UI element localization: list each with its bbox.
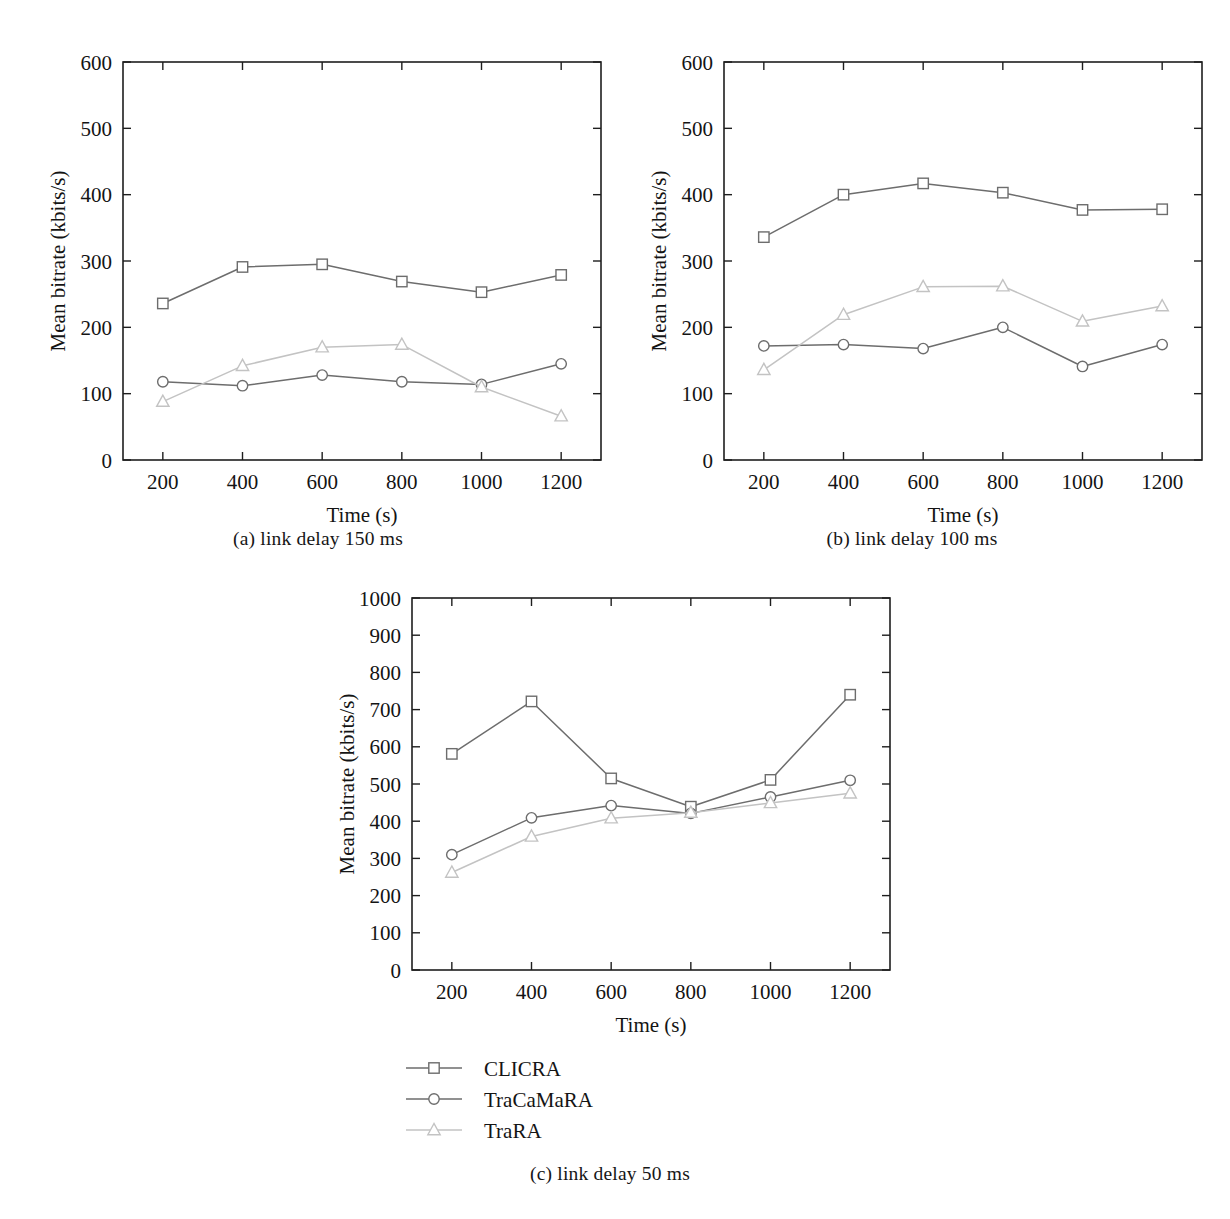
x-axis-title: Time (s)	[327, 503, 398, 527]
data-point-trara-800	[997, 280, 1009, 291]
data-point-trara-600	[917, 280, 929, 291]
legend-item-clicra[interactable]: CLICRA	[406, 1057, 562, 1081]
data-point-clicra-1200	[556, 270, 566, 280]
y-tick-label: 600	[370, 735, 402, 759]
data-point-tracamara-400	[838, 339, 848, 349]
data-point-clicra-600	[918, 178, 928, 188]
chart-a-canvas: 010020030040050060020040060080010001200T…	[18, 40, 618, 520]
data-point-tracamara-400	[526, 813, 536, 823]
y-tick-label: 400	[81, 183, 113, 207]
figure-legend: CLICRATraCaMaRATraRA	[398, 1048, 738, 1156]
legend-item-tracamara[interactable]: TraCaMaRA	[406, 1088, 594, 1112]
data-point-clicra-1000	[1077, 205, 1087, 215]
data-point-clicra-1000	[765, 775, 775, 785]
chart-c-canvas: 0100200300400500600700800900100020040060…	[300, 580, 920, 1030]
y-tick-label: 600	[81, 51, 113, 75]
chart-b-canvas: 010020030040050060020040060080010001200T…	[612, 40, 1212, 520]
caption-a: (a) link delay 150 ms	[18, 528, 618, 550]
series-clicra	[759, 178, 1168, 242]
series-line-trara	[764, 286, 1162, 370]
x-tick-label: 200	[147, 470, 179, 494]
data-point-trara-200	[157, 395, 169, 406]
data-point-trara-800	[396, 338, 408, 349]
y-axis-title: Mean bitrate (kbits/s)	[647, 171, 671, 352]
series-tracamara	[158, 359, 567, 391]
x-tick-label: 1000	[750, 980, 792, 1004]
legend-label-tracamara: TraCaMaRA	[484, 1088, 594, 1112]
x-tick-label: 1000	[461, 470, 503, 494]
data-point-tracamara-1200	[1157, 339, 1167, 349]
x-axis-title: Time (s)	[616, 1013, 687, 1037]
y-tick-label: 0	[102, 449, 113, 473]
data-point-clicra-1200	[845, 690, 855, 700]
y-tick-label: 400	[370, 810, 402, 834]
data-point-trara-200	[758, 363, 770, 374]
data-point-tracamara-1200	[556, 359, 566, 369]
series-line-tracamara	[452, 780, 850, 854]
y-tick-label: 500	[682, 117, 714, 141]
y-tick-label: 500	[370, 773, 402, 797]
legend-label-trara: TraRA	[484, 1119, 542, 1143]
series-clicra	[447, 690, 856, 812]
data-point-clicra-400	[526, 696, 536, 706]
y-tick-label: 700	[370, 698, 402, 722]
data-point-clicra-800	[998, 187, 1008, 197]
data-point-tracamara-200	[158, 377, 168, 387]
data-point-clicra-400	[237, 262, 247, 272]
figure-root: 010020030040050060020040060080010001200T…	[0, 0, 1230, 1219]
plot-frame	[123, 62, 601, 460]
y-axis-title: Mean bitrate (kbits/s)	[46, 171, 70, 352]
x-tick-label: 400	[227, 470, 259, 494]
series-tracamara	[759, 322, 1168, 372]
caption-b: (b) link delay 100 ms	[612, 528, 1212, 550]
chart-panel-a: 010020030040050060020040060080010001200T…	[18, 40, 618, 560]
series-line-trara	[452, 793, 850, 872]
data-point-trara-1200	[1156, 300, 1168, 311]
plot-frame	[724, 62, 1202, 460]
data-point-tracamara-400	[237, 381, 247, 391]
legend-marker-tracamara	[429, 1094, 439, 1104]
y-tick-label: 1000	[359, 587, 401, 611]
y-axis-title: Mean bitrate (kbits/s)	[335, 694, 359, 875]
y-tick-label: 300	[81, 250, 113, 274]
legend-canvas: CLICRATraCaMaRATraRA	[398, 1048, 738, 1156]
data-point-trara-1200	[844, 787, 856, 798]
y-tick-label: 0	[391, 959, 402, 983]
series-trara	[446, 787, 857, 877]
y-tick-label: 200	[81, 316, 113, 340]
data-point-clicra-800	[397, 276, 407, 286]
data-point-clicra-1200	[1157, 204, 1167, 214]
x-tick-label: 1000	[1062, 470, 1104, 494]
series-line-clicra	[452, 695, 850, 807]
chart-panel-c: 0100200300400500600700800900100020040060…	[300, 580, 920, 1060]
data-point-clicra-200	[759, 232, 769, 242]
y-tick-label: 100	[682, 382, 714, 406]
chart-panel-b: 010020030040050060020040060080010001200T…	[612, 40, 1212, 560]
caption-c: (c) link delay 50 ms	[300, 1163, 920, 1185]
data-point-clicra-1000	[476, 287, 486, 297]
x-tick-label: 400	[516, 980, 548, 1004]
y-tick-label: 300	[370, 847, 402, 871]
y-tick-label: 300	[682, 250, 714, 274]
y-tick-label: 400	[682, 183, 714, 207]
legend-marker-clicra	[429, 1063, 439, 1073]
data-point-clicra-400	[838, 189, 848, 199]
x-tick-label: 800	[386, 470, 418, 494]
data-point-clicra-600	[606, 773, 616, 783]
data-point-tracamara-200	[447, 849, 457, 859]
x-tick-label: 600	[595, 980, 627, 1004]
y-tick-label: 200	[682, 316, 714, 340]
data-point-tracamara-600	[606, 800, 616, 810]
series-clicra	[158, 259, 567, 309]
legend-item-trara[interactable]: TraRA	[406, 1119, 542, 1143]
x-axis-title: Time (s)	[928, 503, 999, 527]
y-tick-label: 500	[81, 117, 113, 141]
series-line-tracamara	[764, 327, 1162, 366]
y-tick-label: 0	[703, 449, 714, 473]
y-tick-label: 900	[370, 624, 402, 648]
series-line-clicra	[764, 183, 1162, 237]
data-point-trara-200	[446, 866, 458, 877]
legend-marker-trara	[428, 1124, 440, 1135]
y-tick-label: 200	[370, 884, 402, 908]
data-point-tracamara-1200	[845, 775, 855, 785]
